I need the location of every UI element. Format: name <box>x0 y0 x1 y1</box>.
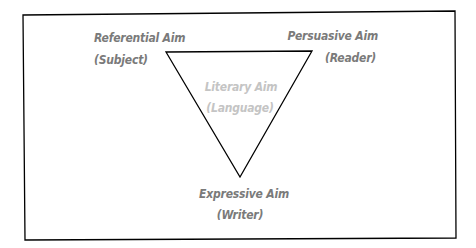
literary-aim-label: Literary Aim <box>205 80 278 94</box>
literary-aim-subtitle: (Language) <box>206 101 273 115</box>
persuasive-aim-label: Persuasive Aim <box>288 29 378 43</box>
referential-aim-subtitle: (Subject) <box>94 53 148 67</box>
expressive-aim-subtitle: (Writer) <box>217 208 263 222</box>
referential-aim-label: Referential Aim <box>94 31 185 45</box>
persuasive-aim-subtitle: (Reader) <box>325 51 376 65</box>
expressive-aim-label: Expressive Aim <box>199 187 289 201</box>
frame-border <box>23 11 456 240</box>
